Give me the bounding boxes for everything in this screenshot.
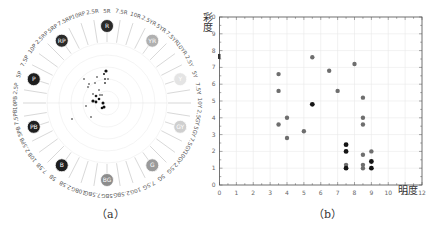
data-point-gray — [285, 136, 289, 140]
x-tick-label: 1 — [234, 189, 238, 196]
hue-badge-label: Y — [177, 75, 182, 82]
data-point-gray — [335, 89, 339, 93]
data-point-black — [344, 166, 349, 171]
hue-label: 2.5YR — [141, 14, 158, 27]
scatter-chart: 0123456789101112012345678910明度彩度 — [200, 0, 435, 205]
x-tick-label: 4 — [285, 189, 289, 196]
hue-spoke — [126, 23, 133, 45]
hue-label: 2.5G — [166, 162, 179, 175]
hue-label: 5G — [156, 173, 166, 182]
x-tick-label: 12 — [418, 189, 426, 196]
hue-label: 10R — [130, 11, 142, 20]
hue-badge-label: G — [150, 161, 155, 168]
hue-badge-label: R — [105, 22, 109, 29]
data-point-gray — [310, 55, 314, 59]
sample-point — [88, 83, 90, 85]
hue-badge-label: BG — [103, 176, 112, 183]
x-tick-label: 5 — [302, 189, 306, 196]
sample-point — [101, 107, 104, 110]
data-point-gray — [276, 72, 280, 76]
hue-spoke — [94, 20, 98, 43]
hue-label: 7.5B — [35, 162, 48, 175]
data-point-gray — [361, 116, 365, 120]
x-tick-label: 7 — [336, 189, 340, 196]
sample-point — [95, 95, 98, 98]
hue-spoke — [24, 113, 47, 117]
x-tick-label: 10 — [384, 189, 392, 196]
hue-badge-label: RP — [58, 37, 66, 44]
hue-label: 7.5R — [115, 8, 129, 16]
x-tick-label: 3 — [268, 189, 272, 196]
x-axis-label: 明度 — [398, 184, 418, 196]
y-tick-label: 3 — [212, 131, 216, 138]
hue-label: 2.5P — [12, 81, 20, 95]
hue-spoke — [94, 163, 98, 186]
sample-point — [96, 76, 98, 78]
y-tick-label: 6 — [212, 80, 216, 87]
hue-label: 10YR — [175, 41, 188, 56]
sample-point — [92, 93, 94, 95]
sample-point — [85, 105, 87, 107]
sample-point — [98, 89, 100, 91]
hue-spoke — [126, 161, 133, 183]
caption-a: （a） — [96, 205, 125, 221]
y-tick-label: 0 — [212, 181, 216, 188]
hue-label: 10G — [129, 186, 142, 195]
hue-spoke — [156, 139, 175, 153]
data-point-gray — [361, 95, 365, 99]
hue-label: 2.5B — [58, 180, 72, 191]
sample-point — [107, 78, 109, 80]
data-point-gray — [285, 116, 289, 120]
hue-label: 2.5Y — [184, 54, 195, 68]
caption-b: （b） — [313, 205, 342, 221]
sample-point — [102, 102, 105, 105]
y-axis-label: 彩度 — [202, 12, 213, 33]
sample-point — [94, 82, 96, 84]
y-tick-label: 7 — [212, 63, 216, 70]
data-point-black — [344, 149, 349, 154]
hue-spoke — [39, 139, 58, 153]
hue-badge-label: B — [60, 161, 64, 168]
hue-label: 2.5R — [86, 8, 100, 16]
hue-label: 10RP — [71, 10, 87, 20]
y-tick-label: 2 — [212, 147, 216, 154]
data-point-black — [344, 142, 349, 147]
data-point-black — [369, 166, 374, 171]
hue-label: 2.5BG — [113, 190, 130, 199]
hue-spoke — [24, 90, 47, 94]
data-point-black — [369, 159, 374, 164]
hue-spoke — [69, 28, 79, 48]
sample-point — [99, 94, 101, 96]
data-point-gray — [361, 122, 365, 126]
hue-label: 5Y — [191, 70, 199, 79]
data-point-gray — [369, 149, 373, 153]
sample-point — [95, 101, 98, 104]
hue-label: 5P — [15, 70, 23, 79]
hue-label: 7.5G — [142, 180, 156, 191]
data-point-gray — [276, 122, 280, 126]
hue-spoke — [135, 157, 145, 177]
sample-point — [104, 82, 106, 84]
y-tick-label: 1 — [212, 164, 216, 171]
hue-badge-label: P — [32, 75, 36, 82]
hue-spoke — [81, 23, 88, 45]
data-point-gray — [361, 166, 365, 170]
hue-spoke — [81, 161, 88, 183]
x-tick-label: 9 — [369, 189, 373, 196]
hue-badge-label: YR — [147, 37, 156, 44]
sample-point — [87, 86, 89, 88]
hue-label: 2.5RP — [34, 29, 50, 45]
hue-spoke — [39, 54, 58, 68]
data-point-gray — [302, 129, 306, 133]
data-point-gray — [352, 62, 356, 66]
hue-badge-label: GY — [176, 123, 184, 130]
sample-point — [91, 99, 94, 102]
y-tick-label: 5 — [212, 97, 216, 104]
hue-spoke — [135, 28, 145, 48]
hue-label: 2.5PB — [18, 136, 31, 153]
data-point-gray — [276, 89, 280, 93]
hue-spoke — [117, 163, 121, 186]
hue-label: 7.5P — [19, 54, 30, 68]
sample-point — [101, 94, 103, 96]
hue-spoke — [117, 20, 121, 43]
